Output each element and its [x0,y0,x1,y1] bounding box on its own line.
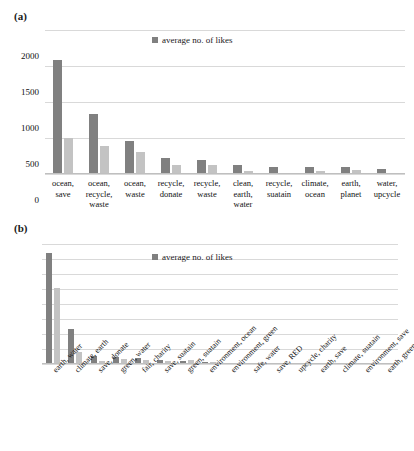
bar-group [369,30,405,174]
chart-a-x-labels: ocean,saveocean,recycle,wasteocean,waste… [45,178,405,210]
bar-group [189,30,225,174]
bar [46,253,52,364]
chart-a-bars [45,30,405,174]
bar [197,160,206,174]
bar [161,158,170,174]
x-axis-tick-label: recycle,donate [153,178,189,210]
chart-b-x-labels: earth, waterclimate, earthsave, donategr… [42,368,398,448]
gridline [45,174,405,175]
chart-a-legend: average no. of likes [152,35,232,45]
chart-a: 0500100015002000 average no. of likes oc… [0,26,414,216]
x-axis-tick-label: climate,ocean [297,178,333,210]
y-axis-tick-label: 1000 [0,124,39,133]
chart-a-axis-line [45,173,405,174]
chart-a-plot-area [45,30,405,174]
figure-container: (a) 0500100015002000 average no. of like… [0,0,414,451]
bar-group [42,244,64,364]
bar-group [117,30,153,174]
chart-b: 02004006008001000120014001600 average no… [0,238,414,451]
panel-b-label: (b) [14,222,27,234]
x-axis-tick-label: earth,planet [333,178,369,210]
x-axis-tick-label: recycle,waste [189,178,225,210]
bar-group [297,30,333,174]
bar [125,141,134,174]
bar [64,138,73,174]
chart-a-legend-label: average no. of likes [162,35,232,45]
y-axis-tick-label: 0 [0,196,39,205]
chart-b-legend: average no. of likes [152,252,232,262]
bar-group [261,30,297,174]
bar [54,288,60,364]
y-axis-tick-label: 500 [0,160,39,169]
bar-group [333,30,369,174]
x-axis-tick-label: recycle,suatain [261,178,297,210]
x-axis-tick-label: ocean,waste [117,178,153,210]
bar [53,60,62,174]
legend-swatch-icon [152,37,158,43]
bar-group [45,30,81,174]
y-axis-tick-label: 2000 [0,52,39,61]
bar-group [153,30,189,174]
x-axis-tick-label: ocean,save [45,178,81,210]
bar-group [225,30,261,174]
x-axis-tick-label: water,upcycle [369,178,405,210]
legend-swatch-icon [152,254,158,260]
bar [136,152,145,174]
chart-b-legend-label: average no. of likes [162,252,232,262]
panel-a-label: (a) [14,10,27,22]
bar-group [81,30,117,174]
x-axis-tick-label: ocean,recycle,waste [81,178,117,210]
bar [89,114,98,174]
bar [100,146,109,174]
x-axis-tick-label: clean,earth,water [225,178,261,210]
y-axis-tick-label: 1500 [0,88,39,97]
